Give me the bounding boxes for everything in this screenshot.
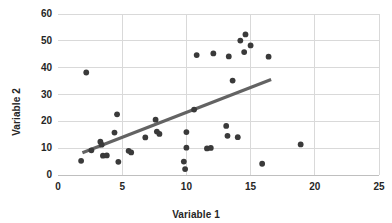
data-point <box>208 145 214 151</box>
data-point <box>298 142 304 148</box>
data-point <box>248 42 254 48</box>
data-point <box>266 54 272 60</box>
y-axis-title: Variable 2 <box>11 57 23 167</box>
data-point <box>104 153 110 159</box>
trendline-segment <box>82 79 271 152</box>
data-point <box>243 31 249 37</box>
data-point <box>142 135 148 141</box>
data-point <box>153 117 159 123</box>
y-tick-label: 0 <box>26 169 52 181</box>
x-tick-label: 5 <box>107 181 137 193</box>
data-point <box>241 49 247 55</box>
data-point <box>128 150 134 156</box>
data-point <box>157 131 163 137</box>
data-point <box>184 129 190 135</box>
data-point <box>225 133 231 139</box>
data-point <box>99 142 105 148</box>
x-tick-label: 20 <box>300 181 330 193</box>
trendline <box>82 79 271 152</box>
y-tick-label: 50 <box>26 35 52 47</box>
data-point <box>259 161 265 167</box>
data-point <box>182 166 188 172</box>
data-point <box>230 78 236 84</box>
data-point <box>83 70 89 76</box>
data-point <box>181 159 187 165</box>
data-point <box>235 134 241 140</box>
scatter-chart: 0102030405060 0510152025 Variable 1 Vari… <box>0 0 392 223</box>
y-tick-label: 60 <box>26 8 52 20</box>
x-tick-label: 25 <box>364 181 392 193</box>
x-tick-label: 10 <box>171 181 201 193</box>
y-tick-label: 30 <box>26 89 52 101</box>
horizontal-gridlines <box>58 14 379 175</box>
data-point <box>210 51 216 57</box>
data-point <box>226 53 232 59</box>
y-tick-label: 40 <box>26 62 52 74</box>
data-point <box>115 159 121 165</box>
x-axis-title: Variable 1 <box>0 209 392 220</box>
y-tick-label: 10 <box>26 142 52 154</box>
data-point <box>184 145 190 151</box>
data-point <box>78 158 84 164</box>
data-points <box>78 31 303 172</box>
y-tick-label: 20 <box>26 115 52 127</box>
data-point <box>194 52 200 58</box>
data-point <box>88 147 94 153</box>
data-point <box>112 130 118 136</box>
data-point <box>237 38 243 44</box>
data-point <box>223 123 229 129</box>
x-tick-label: 0 <box>43 181 73 193</box>
x-tick-label: 15 <box>236 181 266 193</box>
data-point <box>191 107 197 113</box>
data-point <box>114 111 120 117</box>
